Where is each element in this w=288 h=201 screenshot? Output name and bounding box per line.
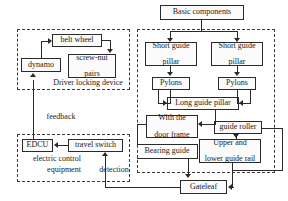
- node-label-line1: screw-nut: [70, 54, 114, 62]
- edge-lgp-to-door-frame: [202, 124, 216, 125]
- node-basic-components[interactable]: Basic components: [160, 5, 244, 20]
- edge-door-frame-left-drop: [137, 124, 138, 144]
- node-label: With the door frame: [148, 114, 196, 138]
- arrowhead-to-long-guide-pillar-left: [163, 100, 167, 106]
- node-travel-switch[interactable]: travel switch: [68, 139, 123, 152]
- node-long-guide-pillar[interactable]: Long guide pillar: [167, 97, 239, 110]
- arrowhead-to-gateleaf-top: [185, 174, 191, 178]
- node-with-the-door-frame[interactable]: With the door frame: [146, 115, 198, 138]
- edge-pylons-left-corner: [158, 90, 159, 104]
- node-label: guide roller: [216, 123, 260, 131]
- edge-guide-rail-drop: [232, 163, 233, 187]
- node-label-line1: Upper and: [201, 139, 259, 147]
- node-pylons-right[interactable]: Pylons: [218, 77, 256, 90]
- node-label: Short guide pillar: [147, 42, 195, 66]
- edge-right-rail-to-guide-roller: [262, 128, 283, 129]
- node-label: Upper and lower guide rail: [201, 139, 259, 163]
- edge-right-rail: [282, 128, 283, 171]
- arrowhead-to-short-guide-pillar-left: [167, 38, 173, 42]
- node-label: Pylons: [220, 79, 254, 87]
- node-short-guide-pillar-left[interactable]: Short guide pillar: [145, 42, 197, 66]
- diagram-canvas: Basic components belt wheel dynamo screw…: [0, 0, 288, 201]
- arrowhead-to-upper-lower-guide-rail: [233, 134, 239, 138]
- node-guide-roller[interactable]: guide roller: [214, 121, 262, 134]
- node-label-line2: pairs: [70, 70, 114, 78]
- node-label: Basic components: [162, 8, 242, 16]
- edge-bearing-to-gateleaf: [188, 158, 189, 175]
- edge-bearing-guide-top: [137, 144, 198, 145]
- node-dynamo[interactable]: dynamo: [21, 58, 61, 72]
- node-label-line1: Short guide: [147, 42, 195, 50]
- edge-door-frame-left-run: [137, 124, 147, 125]
- edge-label-feedback: feedback: [36, 113, 86, 121]
- edge-dynamo-up: [41, 41, 42, 59]
- edge-feedback-line: [33, 80, 34, 139]
- node-label: belt wheel: [54, 36, 100, 44]
- node-label-line2: pillar: [213, 58, 261, 66]
- node-label: travel switch: [70, 141, 121, 149]
- arrowhead-to-short-guide-pillar-right: [234, 38, 240, 42]
- node-belt-wheel[interactable]: belt wheel: [52, 34, 102, 47]
- node-edcu[interactable]: EDCU: [22, 139, 53, 152]
- node-pylons-left[interactable]: Pylons: [152, 77, 190, 90]
- edge-pylons-left-drop: [170, 90, 171, 104]
- group-label-driver-locking-device: Driver locking device: [45, 79, 131, 87]
- edge-split-bar: [170, 31, 237, 32]
- arrowhead-feedback-to-dynamo: [30, 73, 36, 77]
- node-short-guide-pillar-right[interactable]: Short guide pillar: [211, 42, 263, 66]
- edge-label-bearing-guide: Bearing guide: [136, 147, 198, 155]
- edge-gateleaf-to-detection: [105, 154, 106, 188]
- node-label: Gateleaf: [182, 183, 225, 191]
- arrowhead-to-pylons-left: [167, 72, 173, 76]
- node-label-line2: pillar: [147, 58, 195, 66]
- edge-travel-switch-to-edcu: [58, 145, 69, 146]
- node-screw-nut-pairs[interactable]: screw-nut pairs: [68, 54, 116, 78]
- node-label-line2: lower guide rail: [201, 155, 259, 163]
- edge-bearing-guide-right: [197, 144, 198, 158]
- node-label-line1: With the: [148, 114, 196, 122]
- edge-pylons-right-drop: [237, 90, 238, 104]
- node-label: screw-nut pairs: [70, 54, 114, 78]
- node-gateleaf[interactable]: Gateleaf: [180, 180, 227, 194]
- edge-gateleaf-right-run: [232, 170, 282, 171]
- arrowhead-to-with-the-door-frame: [198, 121, 202, 127]
- node-label: Short guide pillar: [213, 42, 261, 66]
- edge-label-detection: detection: [92, 166, 136, 174]
- node-label-line2: door frame: [148, 131, 196, 139]
- node-label-line1: Short guide: [213, 42, 261, 50]
- arrowhead-to-belt-wheel: [48, 38, 52, 44]
- node-label: Pylons: [154, 79, 188, 87]
- group-label-electric-control-line2: equipment: [26, 166, 102, 174]
- edge-lgp-drop: [215, 110, 216, 125]
- node-label: EDCU: [24, 141, 51, 149]
- arrowhead-to-screw-nut-pairs: [107, 49, 113, 53]
- arrowhead-to-travel-switch: [102, 152, 108, 156]
- node-label: dynamo: [23, 61, 59, 69]
- arrowhead-to-edcu: [54, 142, 58, 148]
- edge-gateleaf-left-run: [105, 187, 181, 188]
- edge-pylons-right-corner: [250, 90, 251, 104]
- arrowhead-to-long-guide-pillar-right: [239, 100, 243, 106]
- arrowhead-to-pylons-right: [234, 72, 240, 76]
- node-label: Long guide pillar: [169, 99, 237, 107]
- arrowhead-to-gateleaf-right: [228, 184, 232, 190]
- group-label-electric-control-line1: electric control: [19, 155, 95, 163]
- edge-basic-to-split: [201, 20, 202, 31]
- node-upper-and-lower-guide-rail[interactable]: Upper and lower guide rail: [199, 139, 261, 163]
